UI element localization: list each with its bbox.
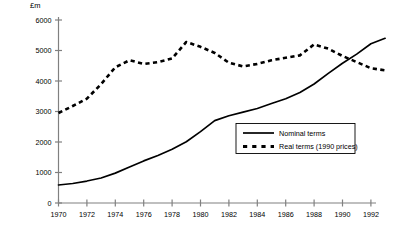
x-tick-label: 1990 xyxy=(335,210,351,219)
series-line-2 xyxy=(59,42,386,113)
y-tick-label: 6000 xyxy=(36,16,52,25)
x-tick-label: 1984 xyxy=(249,210,265,219)
y-axis: 0100020003000400050006000 xyxy=(36,16,63,208)
chart-canvas: 0100020003000400050006000 19701972197419… xyxy=(0,0,396,230)
y-tick-label: 0 xyxy=(48,199,52,208)
series-line-1 xyxy=(59,38,386,185)
x-tick-label: 1970 xyxy=(51,210,67,219)
x-tick-label: 1972 xyxy=(79,210,95,219)
x-tick-label: 1980 xyxy=(193,210,209,219)
x-tick-label: 1988 xyxy=(306,210,322,219)
x-tick-label: 1974 xyxy=(107,210,123,219)
x-axis: 1970197219741976197819801982198419861988… xyxy=(51,200,379,220)
data-series-group xyxy=(59,38,386,185)
y-tick-label: 4000 xyxy=(36,77,52,86)
x-tick-label: 1986 xyxy=(278,210,294,219)
legend-label-1: Nominal terms xyxy=(279,129,326,138)
legend-label-2: Real terms (1990 prices) xyxy=(279,142,358,151)
x-tick-label: 1978 xyxy=(164,210,180,219)
x-tick-label: 1976 xyxy=(136,210,152,219)
y-tick-label: 5000 xyxy=(36,46,52,55)
line-chart: £m 0100020003000400050006000 19701972197… xyxy=(0,0,396,230)
y-tick-label: 3000 xyxy=(36,107,52,116)
x-tick-label: 1992 xyxy=(363,210,379,219)
y-tick-label: 2000 xyxy=(36,138,52,147)
y-tick-label: 1000 xyxy=(36,168,52,177)
x-tick-label: 1982 xyxy=(221,210,237,219)
chart-legend: Nominal termsReal terms (1990 prices) xyxy=(236,124,358,154)
